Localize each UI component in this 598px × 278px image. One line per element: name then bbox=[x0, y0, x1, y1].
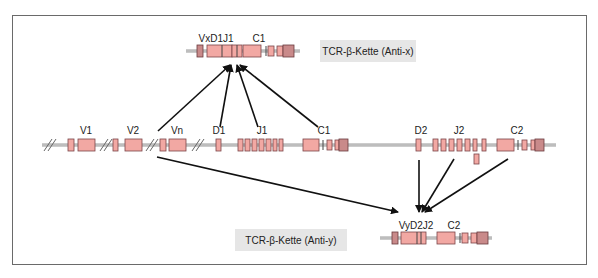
c2-label-bottom: C2 bbox=[448, 220, 461, 231]
vn-label: Vn bbox=[171, 125, 183, 136]
d2-label: D2 bbox=[415, 125, 428, 136]
v1-label: V1 bbox=[80, 125, 93, 136]
anti-x-label: TCR-β-Kette (Anti-x) bbox=[322, 46, 413, 57]
c1-label-top: C1 bbox=[253, 33, 266, 44]
anti-y-label: TCR-β-Kette (Anti-y) bbox=[245, 235, 336, 246]
recombination-arrows bbox=[157, 65, 508, 212]
germline-locus: V1 V2 Vn D1 J1 C1 D2 J2 C2 bbox=[42, 125, 556, 164]
rearranged-gene-anti-y: VyD2J2 C2 bbox=[380, 220, 492, 244]
arrow-vn-to-vxd1j1 bbox=[158, 65, 230, 131]
d1-label: D1 bbox=[213, 125, 226, 136]
label-box-anti-y: TCR-β-Kette (Anti-y) bbox=[235, 229, 347, 251]
arrow-d1-to-vxd1j1 bbox=[220, 65, 231, 127]
label-box-anti-x: TCR-β-Kette (Anti-x) bbox=[320, 40, 416, 62]
vdj-label-bottom: VyD2J2 bbox=[399, 220, 434, 231]
v2-label: V2 bbox=[127, 125, 140, 136]
rearranged-gene-anti-x: VxD1J1 C1 bbox=[186, 33, 300, 57]
arrow-c1-to-vxd1j1 bbox=[240, 65, 318, 127]
c2-label: C2 bbox=[511, 125, 524, 136]
j2-label: J2 bbox=[454, 125, 465, 136]
vdj-label-top: VxD1J1 bbox=[198, 33, 233, 44]
tcr-beta-rearrangement-diagram: TCR-β-Kette (Anti-x) TCR-β-Kette (Anti-y… bbox=[0, 0, 598, 278]
arrow-j1-to-vxd1j1 bbox=[237, 65, 258, 127]
arrow-vn-to-vyd2j2 bbox=[157, 157, 398, 212]
c1-label: C1 bbox=[318, 125, 331, 136]
